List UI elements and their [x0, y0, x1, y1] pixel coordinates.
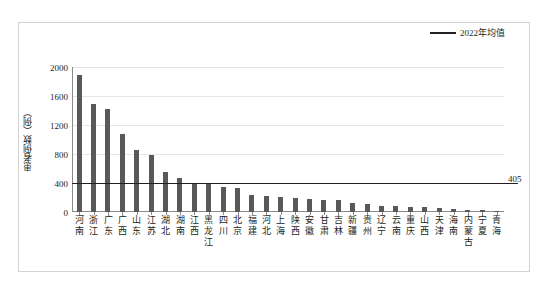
bar-湖北: [158, 67, 172, 212]
x-label-湖北: 湖北: [159, 215, 173, 237]
bar-广东: [101, 67, 115, 212]
bar-rect: [206, 184, 211, 212]
bar-浙江: [86, 67, 100, 212]
bar-宁夏: [475, 67, 489, 212]
y-axis-tick-labels: 2000 1600 1200 800 400 0: [34, 60, 68, 220]
bar-rect: [77, 75, 82, 212]
x-label-河南: 河南: [72, 215, 86, 237]
bar-rect: [307, 199, 312, 212]
bar-rect: [163, 172, 168, 212]
x-label-辽宁: 辽宁: [375, 215, 389, 237]
x-label-湖南: 湖南: [173, 215, 187, 237]
bar-新疆: [346, 67, 360, 212]
x-label-黑龙江: 黑龙江: [202, 215, 216, 248]
x-label-山西: 山西: [418, 215, 432, 237]
bar-rect: [221, 187, 226, 212]
x-label-贵州: 贵州: [360, 215, 374, 237]
chart-legend: 2022年均值: [430, 28, 505, 38]
x-label-浙江: 浙江: [87, 215, 101, 237]
bar-山西: [418, 67, 432, 212]
bar-甘肃: [317, 67, 331, 212]
bar-天津: [432, 67, 446, 212]
bar-重庆: [403, 67, 417, 212]
mean-line-swatch-icon: [430, 32, 456, 34]
x-label-青海: 青海: [490, 215, 504, 237]
bar-河南: [72, 67, 86, 212]
x-label-甘肃: 甘肃: [317, 215, 331, 237]
x-label-内蒙古: 内蒙古: [461, 215, 475, 248]
y-tick-400: 400: [55, 180, 69, 189]
x-label-江苏: 江苏: [144, 215, 158, 237]
bar-rect: [249, 195, 254, 212]
bar-rect: [120, 134, 125, 212]
bar-rect: [91, 104, 96, 212]
x-label-新疆: 新疆: [346, 215, 360, 237]
x-axis-tick-labels: 河南浙江广东广西山东江苏湖北湖南江西黑龙江四川北京福建河北上海陕西安徽甘肃吉林新…: [72, 215, 504, 271]
bar-云南: [389, 67, 403, 212]
x-label-上海: 上海: [274, 215, 288, 237]
bar-内蒙古: [461, 67, 475, 212]
bar-福建: [245, 67, 259, 212]
bar-黑龙江: [202, 67, 216, 212]
bar-辽宁: [374, 67, 388, 212]
bar-rect: [293, 198, 298, 212]
x-label-吉林: 吉林: [331, 215, 345, 237]
bar-rect: [365, 204, 370, 212]
x-label-宁夏: 宁夏: [475, 215, 489, 237]
y-tick-2000: 2000: [50, 64, 68, 73]
bar-广西: [115, 67, 129, 212]
bar-安徽: [302, 67, 316, 212]
bar-贵州: [360, 67, 374, 212]
bar-rect: [192, 183, 197, 212]
bar-海南: [446, 67, 460, 212]
mean-value-label: 405: [508, 175, 522, 184]
y-tick-0: 0: [64, 209, 69, 218]
bar-rect: [105, 109, 110, 212]
x-label-江西: 江西: [187, 215, 201, 237]
bar-rect: [278, 197, 283, 212]
x-label-广西: 广西: [115, 215, 129, 237]
bar-陕西: [288, 67, 302, 212]
y-axis-title: 患者例数（例）: [20, 84, 34, 196]
y-tick-1200: 1200: [50, 122, 68, 131]
legend-item-mean-label: 2022年均值: [460, 28, 505, 38]
x-label-福建: 福建: [245, 215, 259, 237]
plot-area: [72, 67, 504, 212]
x-label-天津: 天津: [432, 215, 446, 237]
bar-江苏: [144, 67, 158, 212]
bar-rect: [149, 155, 154, 212]
bar-吉林: [331, 67, 345, 212]
bar-rect: [321, 200, 326, 212]
x-label-广东: 广东: [101, 215, 115, 237]
x-label-陕西: 陕西: [288, 215, 302, 237]
bar-四川: [216, 67, 230, 212]
mean-reference-line: [72, 183, 518, 184]
bar-青海: [490, 67, 504, 212]
x-label-北京: 北京: [231, 215, 245, 237]
bar-rect: [336, 200, 341, 212]
bar-rect: [235, 188, 240, 212]
x-label-山东: 山东: [130, 215, 144, 237]
bar-rect: [350, 203, 355, 212]
x-label-海南: 海南: [447, 215, 461, 237]
bar-rect: [134, 150, 139, 212]
bar-河北: [259, 67, 273, 212]
bar-rect: [264, 196, 269, 212]
x-label-河北: 河北: [259, 215, 273, 237]
x-label-云南: 云南: [389, 215, 403, 237]
bar-series: [72, 67, 504, 212]
x-label-四川: 四川: [216, 215, 230, 237]
bar-山东: [130, 67, 144, 212]
y-tick-800: 800: [55, 151, 69, 160]
figure-container: 2022年均值 患者例数（例） 2000 1600 1200 800 400 0…: [0, 0, 546, 291]
bar-湖南: [173, 67, 187, 212]
x-label-安徽: 安徽: [303, 215, 317, 237]
bar-江西: [187, 67, 201, 212]
x-label-重庆: 重庆: [403, 215, 417, 237]
y-tick-1600: 1600: [50, 93, 68, 102]
bar-北京: [230, 67, 244, 212]
bar-上海: [274, 67, 288, 212]
